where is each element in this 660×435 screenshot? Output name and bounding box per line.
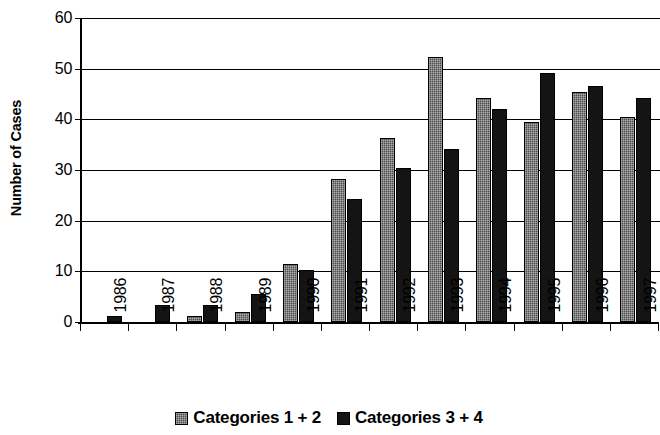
x-tick-label: 1991 — [353, 278, 370, 336]
x-tick-label: 1990 — [305, 278, 322, 336]
x-tick-label: 1986 — [112, 278, 129, 336]
bar — [620, 117, 635, 322]
legend-label: Categories 1 + 2 — [193, 408, 321, 428]
legend-swatch-icon — [175, 412, 188, 425]
y-tick-mark — [75, 119, 82, 120]
bar — [380, 138, 395, 322]
x-tick-label: 1996 — [594, 278, 611, 336]
y-axis-title: Number of Cases — [8, 58, 24, 258]
x-tick-label: 1992 — [401, 278, 418, 336]
y-tick-label: 50 — [36, 61, 72, 77]
bars-layer — [82, 18, 660, 322]
y-tick-label: 60 — [36, 10, 72, 26]
x-tick-label: 1988 — [208, 278, 225, 336]
y-tick-mark — [75, 69, 82, 70]
plot-area — [80, 18, 660, 322]
y-tick-label: 10 — [36, 263, 72, 279]
legend-swatch-icon — [337, 412, 350, 425]
y-axis-tick-labels: 0102030405060 — [24, 0, 72, 340]
x-tick-label: 1997 — [642, 278, 659, 336]
bar — [476, 98, 491, 322]
x-tick-mark — [80, 322, 81, 331]
bar — [235, 312, 250, 322]
bar — [572, 92, 587, 322]
y-tick-mark — [75, 170, 82, 171]
chart-legend: Categories 1 + 2Categories 3 + 4 — [0, 408, 658, 428]
bar — [524, 122, 539, 322]
legend-entry[interactable]: Categories 1 + 2 — [175, 408, 321, 428]
y-tick-label: 0 — [36, 314, 72, 330]
x-tick-label: 1989 — [257, 278, 274, 336]
x-tick-label: 1995 — [546, 278, 563, 336]
bar — [283, 264, 298, 322]
y-tick-mark — [75, 221, 82, 222]
legend-entry[interactable]: Categories 3 + 4 — [337, 408, 483, 428]
y-tick-mark — [75, 271, 82, 272]
y-tick-mark — [75, 18, 82, 19]
bar — [428, 57, 443, 322]
legend-label: Categories 3 + 4 — [355, 408, 483, 428]
x-tick-label: 1994 — [497, 278, 514, 336]
y-tick-label: 20 — [36, 213, 72, 229]
x-tick-label: 1987 — [160, 278, 177, 336]
bar — [331, 179, 346, 322]
y-tick-label: 30 — [36, 162, 72, 178]
y-tick-label: 40 — [36, 111, 72, 127]
x-tick-label: 1993 — [449, 278, 466, 336]
